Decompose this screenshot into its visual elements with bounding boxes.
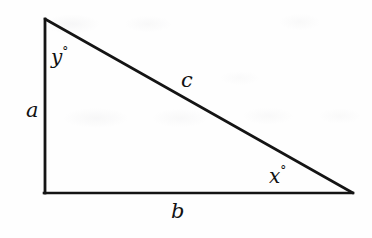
angle-y-variable: y: [51, 45, 62, 69]
side-c-line: [45, 19, 353, 193]
side-c-label: c: [181, 70, 193, 91]
triangle-shape: [0, 0, 372, 238]
angle-y-label: y°: [51, 46, 68, 67]
triangle-diagram-canvas: a b c y° x°: [0, 0, 372, 238]
side-b-label: b: [171, 201, 184, 222]
side-a-label: a: [26, 100, 39, 121]
angle-x-variable: x: [269, 164, 280, 188]
degree-symbol-icon: °: [280, 164, 286, 178]
angle-x-label: x°: [269, 165, 286, 186]
degree-symbol-icon: °: [62, 45, 68, 59]
